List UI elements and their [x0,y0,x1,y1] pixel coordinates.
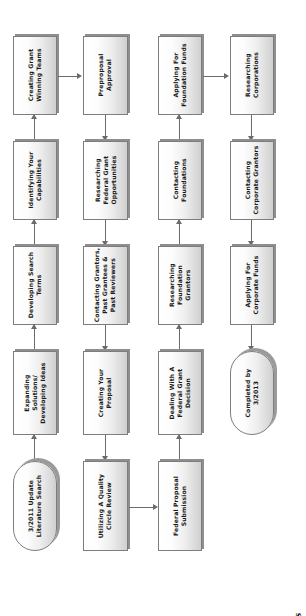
connector-n15-n16 [203,76,225,77]
figure-title: Action Steps’ Chart: Applying for Corpor… [291,612,304,616]
flow-node-contacting-grantors-past-grantees-past-reviewers[interactable]: Contacting Grantors, Past Grantees & Pas… [83,246,128,325]
flow-node-label: Contacting Corporate Grantors [244,146,260,215]
flow-node-identifying-your-capabilities[interactable]: Identifying Your Capabilities [13,141,57,220]
flow-node-label: Preproposal Approval [97,54,113,97]
flow-node-label: Researching Federal Grant Opportunities [93,156,117,205]
flow-node-contacting-corporate-grantors[interactable]: Contacting Corporate Grantors [230,141,274,220]
flow-node-label: Expanding Solutions/ Developing Ideas [23,362,47,423]
figure-canvas: Creating Grant Winning Teams Identifying… [0,0,306,616]
arrowhead-n4-n5 [31,114,37,119]
arrowhead-n12-n13 [176,324,182,329]
flow-node-label: Researching Foundation Grantors [168,264,192,308]
flow-node-federal-proposal-submission[interactable]: Federal Proposal Submission [158,461,202,551]
flow-node-label: Contacting Foundations [172,159,188,203]
arrowhead-n13-n14 [176,219,182,224]
arrowhead-n5-n6 [77,73,82,79]
flow-node-applying-for-foundation-funds[interactable]: Applying For Foundation Funds [158,36,202,115]
flow-node-expanding-solutions-developing-ideas[interactable]: Expanding Solutions/ Developing Ideas [13,351,57,435]
flow-node-preproposal-approval[interactable]: Preproposal Approval [83,36,128,115]
flow-node-label: Contacting Grantors, Past Grantees & Pas… [93,248,117,322]
flow-node-label: Dealing With A Federal Grant Decision [168,367,192,420]
connector-n10-n11 [129,507,154,508]
flow-node-researching-foundation-grantors[interactable]: Researching Foundation Grantors [158,246,202,325]
flow-node-label: Completed by 3/2013 [244,369,260,418]
flow-node-label: Applying For Corporate Funds [244,256,260,315]
flow-node-label: Utilizing A Quality Circle Review [97,474,113,538]
flow-node-researching-federal-grant-opportunities[interactable]: Researching Federal Grant Opportunities [83,141,128,220]
flow-node-end-completed-by-2013[interactable]: Completed by 3/2013 [230,351,274,435]
arrowhead-n3-n4 [31,219,37,224]
figure-number: FIGURE 27.1 [280,612,291,616]
flow-node-creating-grant-winning-teams[interactable]: Creating Grant Winning Teams [13,36,57,115]
arrowhead-n11-n12 [176,434,182,439]
flow-node-contacting-foundations[interactable]: Contacting Foundations [158,141,202,220]
flow-node-utilizing-a-quality-circle-review[interactable]: Utilizing A Quality Circle Review [83,461,128,551]
flow-node-creating-your-proposal[interactable]: Creating Your Proposal [83,351,128,435]
figure-caption: FIGURE 27.1 Action Steps’ Chart: Applyin… [268,612,304,616]
flow-node-developing-search-terms[interactable]: Developing Search Terms [13,246,57,325]
flow-node-researching-corporations[interactable]: Researching Corporations [230,36,274,115]
flow-node-label: Creating Grant Winning Teams [27,49,43,103]
flow-node-start-2011-update-literature-search[interactable]: 3/2011 Update Literature Search [13,461,57,551]
flow-node-label: Developing Search Terms [27,252,43,319]
flow-node-label: Creating Your Proposal [97,369,113,418]
flow-node-label: Applying For Foundation Funds [172,44,188,107]
flow-node-dealing-with-a-federal-grant-decision[interactable]: Dealing With A Federal Grant Decision [158,351,202,435]
flow-node-label: 3/2011 Update Literature Search [27,475,43,537]
flow-node-label: Federal Proposal Submission [172,476,188,536]
connector-n5-n6 [58,76,78,77]
arrowhead-n1-n2 [31,434,37,439]
flow-node-applying-for-corporate-funds[interactable]: Applying For Corporate Funds [230,246,274,325]
arrowhead-n15-n16 [224,73,229,79]
flow-node-label: Researching Corporations [244,53,260,99]
flow-node-label: Identifying Your Capabilities [27,152,43,209]
arrowhead-n14-n15 [176,114,182,119]
arrowhead-n2-n3 [31,324,37,329]
